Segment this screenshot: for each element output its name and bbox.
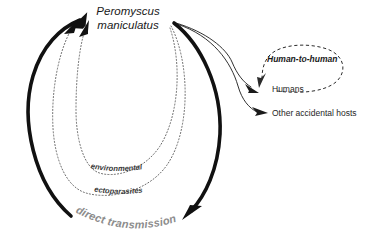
humans-label: Humans (272, 84, 304, 94)
arrowhead-human-to-human (257, 73, 266, 88)
reservoir-label-line2: maniculatus (97, 19, 159, 31)
arrowhead-other-hosts (252, 107, 268, 116)
arrowhead-humans (245, 84, 259, 93)
arrowhead-to-bottom (182, 205, 202, 220)
environmental-arc (76, 28, 177, 175)
diagram-canvas: direct transmission environmental ectopa… (0, 0, 368, 244)
direct-transmission-right-arc (174, 23, 220, 211)
direct-transmission-label: direct transmission (74, 203, 177, 230)
direct-transmission-left-arc (28, 20, 80, 216)
other-accidental-hosts-label: Other accidental hosts (272, 108, 357, 118)
direct-transmission-right-arrow (174, 23, 220, 220)
human-to-human-label: Human-to-human (267, 54, 337, 64)
environmental-arrow (76, 20, 177, 175)
transmission-cycle-diagram: direct transmission environmental ectopa… (0, 0, 368, 244)
ectoparasites-label: ectoparasites (94, 185, 143, 196)
environmental-label: environmental (90, 161, 143, 173)
spillover-humans-path (176, 23, 251, 87)
spillover-to-humans-arrow (176, 23, 259, 93)
reservoir-label-line1: Peromyscus (96, 5, 160, 17)
direct-transmission-left-arrow (28, 12, 89, 216)
